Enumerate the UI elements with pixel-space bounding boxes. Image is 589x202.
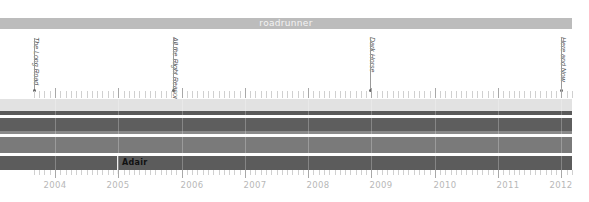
minor-tick — [250, 170, 251, 175]
minor-tick — [482, 91, 483, 98]
grid-line — [55, 99, 56, 170]
major-tick — [561, 170, 562, 178]
minor-tick — [203, 170, 204, 175]
minor-tick — [139, 91, 140, 98]
minor-tick — [440, 170, 441, 175]
minor-tick — [377, 170, 378, 175]
minor-tick — [398, 91, 399, 98]
minor-tick — [519, 170, 520, 175]
minor-tick — [255, 91, 256, 98]
minor-tick — [240, 170, 241, 175]
minor-tick — [282, 170, 283, 175]
year-label: 2008 — [306, 180, 329, 190]
minor-tick — [150, 91, 151, 98]
minor-tick — [382, 91, 383, 98]
major-tick — [435, 170, 436, 178]
minor-tick — [129, 170, 130, 175]
minor-tick — [398, 170, 399, 175]
minor-tick — [213, 170, 214, 175]
minor-tick — [313, 91, 314, 98]
minor-tick — [44, 91, 45, 98]
event-line — [370, 38, 371, 90]
minor-tick — [535, 91, 536, 98]
year-label: 2012 — [549, 180, 572, 190]
minor-tick — [50, 91, 51, 98]
chart-title: roadrunner — [0, 18, 572, 29]
minor-tick — [430, 91, 431, 98]
minor-tick — [350, 91, 351, 98]
minor-tick — [229, 91, 230, 98]
minor-tick — [213, 91, 214, 98]
minor-tick — [134, 170, 135, 175]
minor-tick — [393, 91, 394, 98]
major-tick — [498, 170, 499, 178]
minor-tick — [556, 170, 557, 175]
minor-tick — [298, 91, 299, 98]
minor-tick — [546, 170, 547, 175]
minor-tick — [161, 91, 162, 98]
minor-tick — [145, 170, 146, 175]
minor-tick — [219, 91, 220, 98]
minor-tick — [71, 91, 72, 98]
minor-tick — [514, 91, 515, 98]
minor-tick — [124, 170, 125, 175]
minor-tick — [66, 170, 67, 175]
minor-tick — [87, 170, 88, 175]
minor-tick — [76, 170, 77, 175]
minor-tick — [482, 170, 483, 175]
minor-tick — [414, 170, 415, 175]
minor-tick — [108, 91, 109, 98]
minor-tick — [102, 170, 103, 175]
minor-tick — [81, 170, 82, 175]
minor-tick — [451, 91, 452, 98]
major-tick — [182, 88, 183, 98]
minor-tick — [540, 91, 541, 98]
minor-tick — [166, 91, 167, 98]
minor-tick — [329, 91, 330, 98]
grid-line — [182, 99, 183, 170]
minor-tick — [161, 170, 162, 175]
minor-tick — [171, 170, 172, 175]
grid-line — [371, 99, 372, 170]
minor-tick — [524, 170, 525, 175]
minor-tick — [203, 91, 204, 98]
minor-tick — [519, 91, 520, 98]
minor-tick — [287, 170, 288, 175]
major-tick — [308, 170, 309, 178]
minor-tick — [197, 91, 198, 98]
minor-tick — [313, 170, 314, 175]
minor-tick — [461, 170, 462, 175]
minor-tick — [250, 91, 251, 98]
minor-tick — [493, 91, 494, 98]
minor-tick — [509, 170, 510, 175]
major-tick — [245, 88, 246, 98]
minor-tick — [466, 170, 467, 175]
minor-tick — [387, 91, 388, 98]
minor-tick — [166, 170, 167, 175]
major-tick — [561, 88, 562, 98]
minor-tick — [39, 91, 40, 98]
minor-tick — [234, 170, 235, 175]
minor-tick — [261, 170, 262, 175]
annotation-label: Adair — [122, 158, 148, 167]
year-label: 2009 — [369, 180, 392, 190]
minor-tick — [414, 91, 415, 98]
minor-tick — [567, 91, 568, 98]
band-1 — [0, 99, 572, 111]
major-tick — [371, 170, 372, 178]
minor-tick — [50, 170, 51, 175]
minor-tick — [419, 170, 420, 175]
minor-tick — [92, 91, 93, 98]
minor-tick — [319, 91, 320, 98]
band-5 — [0, 156, 572, 170]
minor-tick — [255, 170, 256, 175]
minor-tick — [298, 170, 299, 175]
minor-tick — [97, 170, 98, 175]
minor-tick — [81, 91, 82, 98]
major-tick — [435, 88, 436, 98]
grid-line — [118, 99, 119, 170]
minor-tick — [424, 170, 425, 175]
minor-tick — [187, 91, 188, 98]
minor-tick — [292, 91, 293, 98]
minor-tick — [472, 170, 473, 175]
